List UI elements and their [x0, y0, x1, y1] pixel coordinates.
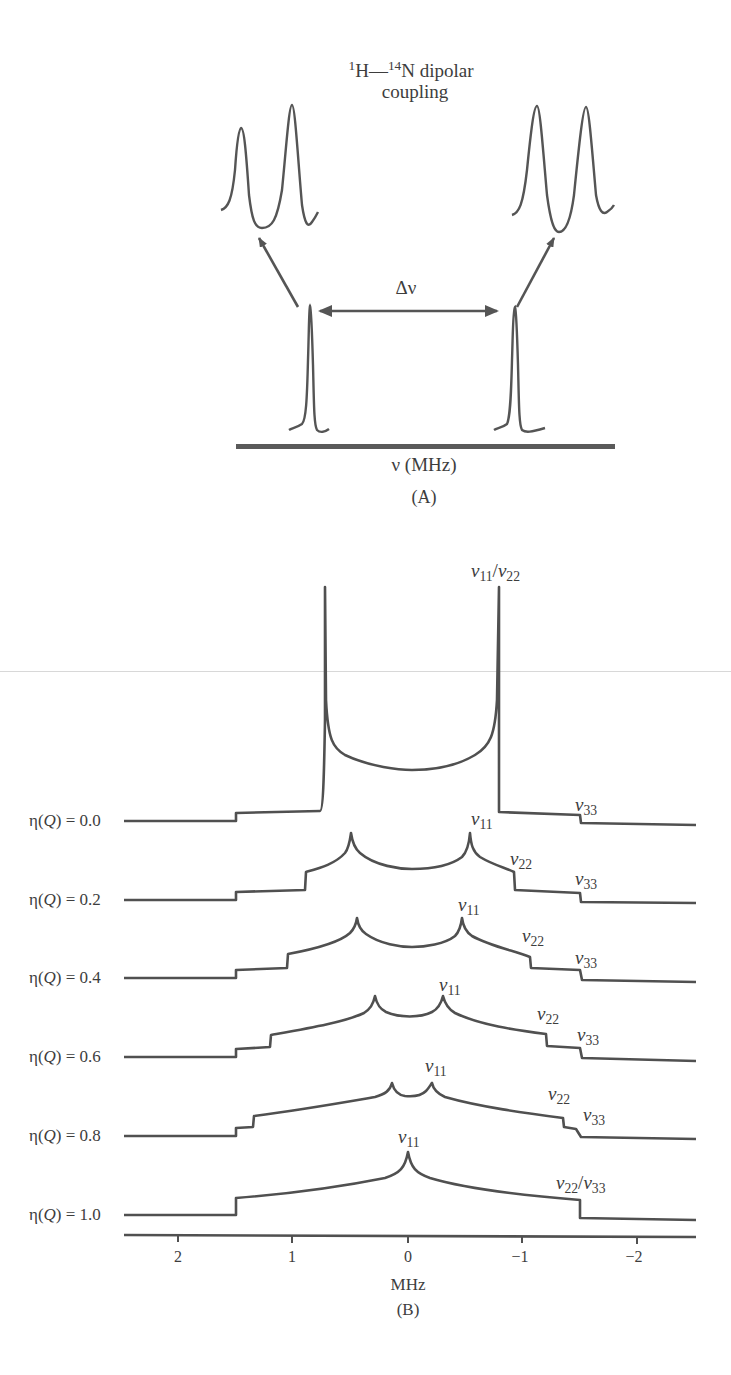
row-label-eta-0-0: η(Q) = 0.0 [29, 811, 101, 831]
panel-b-graphic [0, 0, 731, 1375]
x-tick-label-2: 2 [174, 1248, 182, 1266]
label-v33-eta-0-8: ν33 [583, 1104, 605, 1126]
label-v22-eta-0-6: ν22 [537, 1003, 559, 1025]
spectrum-eta-0-0 [124, 587, 696, 825]
x-tick-label-0: 0 [404, 1248, 412, 1266]
spectrum-eta-0-2 [124, 833, 696, 903]
row-label-eta-0-6: η(Q) = 0.6 [29, 1047, 101, 1067]
spectrum-eta-1-0 [124, 1152, 696, 1220]
label-v22-eta-0-4: ν22 [522, 925, 544, 947]
label-v22-eta-0-8: ν22 [548, 1083, 570, 1105]
label-v22-v33-eta-1-0: ν22/ν33 [556, 1172, 606, 1194]
label-v11-eta-0-6: ν11 [439, 974, 461, 996]
x-tick-label-neg2: −2 [625, 1248, 642, 1266]
x-tick-label-neg1: −1 [511, 1248, 528, 1266]
panel-b-label: (B) [397, 1300, 420, 1320]
x-axis-line [124, 1235, 696, 1237]
label-v11-eta-0-4: ν11 [458, 894, 480, 916]
figure: 1H—14N dipolar coupling Δν ν (MHz) (A) [0, 0, 731, 1375]
row-label-eta-0-2: η(Q) = 0.2 [29, 890, 101, 910]
spectrum-eta-0-6 [124, 996, 696, 1061]
label-v22-eta-0-2: ν22 [510, 848, 532, 870]
label-v33-eta-0-4: ν33 [575, 947, 597, 969]
x-axis-label: MHz [391, 1275, 426, 1295]
label-v11-v22-top: ν11/ν22 [471, 560, 520, 582]
spectrum-eta-0-4 [124, 918, 696, 982]
label-v11-eta-1-0: ν11 [398, 1126, 420, 1148]
row-label-eta-1-0: η(Q) = 1.0 [29, 1205, 101, 1225]
x-tick-label-1: 1 [288, 1248, 296, 1266]
label-v11-eta-0-2: ν11 [471, 808, 493, 830]
row-label-eta-0-8: η(Q) = 0.8 [29, 1126, 101, 1146]
label-v33-eta-0-0: ν33 [575, 794, 597, 816]
label-v33-eta-0-2: ν33 [575, 868, 597, 890]
label-v33-eta-0-6: ν33 [577, 1024, 599, 1046]
row-label-eta-0-4: η(Q) = 0.4 [29, 968, 101, 988]
label-v11-eta-0-8: ν11 [425, 1055, 447, 1077]
